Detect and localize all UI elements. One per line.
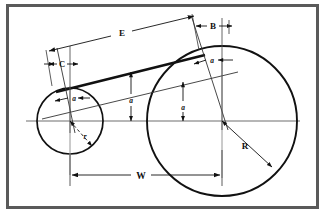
vertical-a-label-left: a <box>129 96 133 105</box>
diagram-frame: E C B a a a a r R <box>0 0 325 214</box>
angle-label-a-large: a <box>210 56 214 65</box>
dimension-label-B: B <box>210 21 216 31</box>
dimension-label-W: W <box>136 171 146 181</box>
pulley-geometry-figure: E C B a a a a r R <box>0 0 325 214</box>
angle-label-a-small: a <box>72 94 76 103</box>
vertical-a-label-right: a <box>181 103 185 112</box>
dimension-label-E: E <box>119 28 125 38</box>
large-radius-label-R: R <box>242 141 249 151</box>
dimension-label-C: C <box>59 59 65 69</box>
